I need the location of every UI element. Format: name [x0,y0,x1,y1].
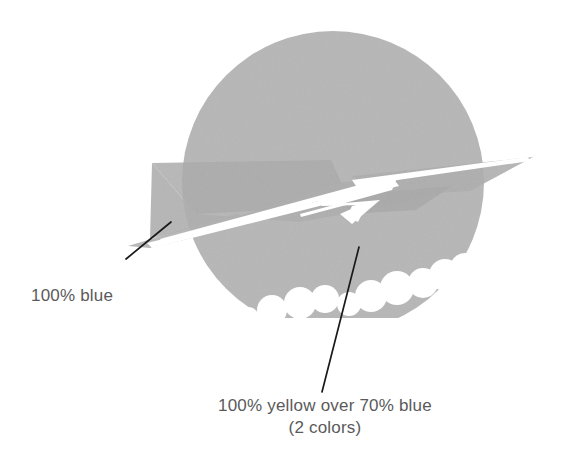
caption-blue: 100% blue [31,285,113,307]
caption-yellow: 100% yellow over 70% blue (2 colors) [196,395,454,440]
figure-root: 100% blue 100% yellow over 70% blue (2 c… [0,0,573,464]
caption-yellow-line1: 100% yellow over 70% blue [196,395,454,417]
caption-blue-label: 100% blue [31,286,113,305]
caption-yellow-line2: (2 colors) [196,417,454,439]
